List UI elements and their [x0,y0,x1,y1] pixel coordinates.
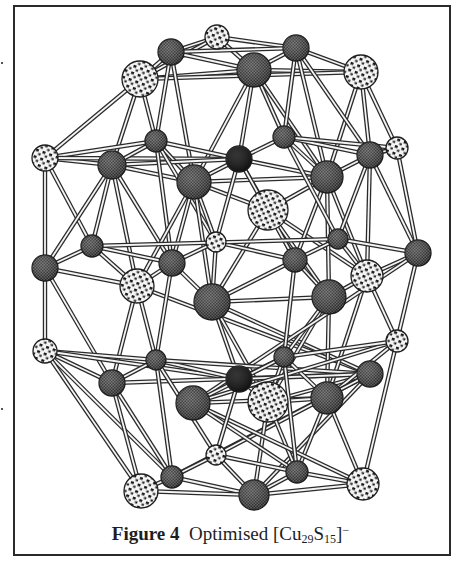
central-atom [226,146,252,172]
sulfur-atom [386,330,408,352]
copper-atom [159,250,185,276]
copper-atom [357,142,383,168]
copper-atom [81,235,103,257]
copper-atom [194,284,230,320]
copper-atom [405,240,431,266]
sulfur-atom [32,145,58,171]
sulfur-atom [248,190,288,230]
charge-superscript: − [342,523,349,537]
bond [156,263,172,360]
copper-atom [161,466,183,488]
central-atom [226,366,252,392]
copper-atom [274,347,294,367]
sulfur-atom [33,339,57,363]
copper-atom [177,165,211,199]
copper-atom [312,280,346,314]
copper-atom [99,370,125,396]
copper-atom [328,229,348,249]
figure-label: Figure 4 [112,523,180,544]
sulfur-atom [206,445,226,465]
s-subscript: 15 [324,532,336,546]
copper-atom [311,382,343,414]
copper-atom [273,126,295,148]
sulfur-atom [206,232,226,252]
bond [397,148,418,253]
caption-title-prefix: Optimised [Cu [189,523,301,544]
sulfur-atom [122,61,158,97]
copper-atom [145,130,167,152]
sulfur-atom [124,474,158,508]
bond [367,155,370,276]
copper-atom [98,151,126,179]
sulfur-atom [120,269,154,303]
copper-atom [286,461,308,483]
copper-atom [146,350,166,370]
copper-atom [357,361,383,387]
bond [171,48,296,52]
sulfur-atom [344,55,378,89]
sulfur-atom [248,382,288,422]
copper-atom [239,480,269,510]
copper-atom [32,255,58,281]
copper-atom [158,39,184,65]
figure-caption: Figure 4 Optimised [Cu29S15]− [0,523,461,547]
copper-atom [311,161,343,193]
cluster-structure-diagram [0,0,461,574]
cu-subscript: 29 [301,532,313,546]
sulfur-symbol: S [313,523,324,544]
sulfur-atom [386,137,408,159]
sulfur-atom [347,468,379,500]
copper-atom [283,35,309,61]
copper-atom [237,53,271,87]
sulfur-atom [205,25,229,49]
copper-atom [283,248,307,272]
sulfur-atom [351,260,383,292]
bond [370,155,418,253]
copper-atom [176,386,210,420]
